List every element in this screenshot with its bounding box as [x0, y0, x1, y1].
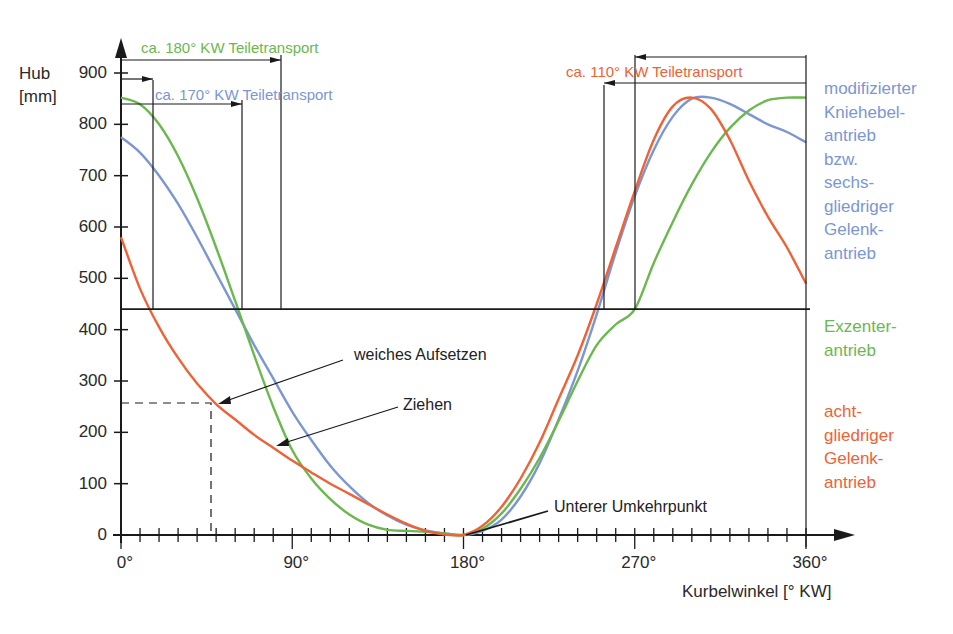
- y-tick-label: 200: [38, 422, 107, 442]
- annotation-ziehen: Ziehen: [403, 397, 452, 413]
- legend-line: antrieb: [824, 242, 917, 266]
- legend-line: antrieb: [824, 339, 897, 363]
- y-axis-label-line2: [mm]: [19, 88, 57, 105]
- y-tick-label: 600: [38, 217, 107, 237]
- series-layer: [121, 97, 806, 536]
- x-tick-label: 180°: [450, 553, 485, 573]
- chart-canvas: [0, 0, 953, 634]
- y-tick-label: 0: [38, 525, 107, 545]
- y-tick-label: 800: [38, 114, 107, 134]
- legend-line: Kniehebel-: [824, 101, 917, 125]
- soft-landing-guide: [121, 403, 211, 535]
- legend-achtgliedrig: acht-gliedrigerGelenk-antrieb: [824, 400, 894, 494]
- legend-line: Gelenk-: [824, 447, 894, 471]
- x-tick-label: 90°: [283, 553, 309, 573]
- annotation-lines: [121, 54, 810, 547]
- legend-exzenter: Exzenter-antrieb: [824, 315, 897, 362]
- x-tick-label: 270°: [621, 553, 656, 573]
- legend-line: sechs-: [824, 171, 917, 195]
- x-tick-label: 360°: [792, 553, 827, 573]
- series-exzenter-line: [121, 97, 806, 535]
- y-axis-arrow-icon: [115, 38, 127, 58]
- x-axis-arrow-icon: [834, 529, 855, 541]
- legend-kniehebel: modifizierterKniehebel-antriebbzw.sechs-…: [824, 77, 917, 265]
- legend-line: bzw.: [824, 148, 917, 172]
- y-tick-label: 900: [38, 63, 107, 83]
- legend-line: Gelenk-: [824, 218, 917, 242]
- y-tick-label: 400: [38, 320, 107, 340]
- legend-line: modifizierter: [824, 77, 917, 101]
- annotation-110-transport: ca. 110° KW Teiletransport: [566, 64, 742, 79]
- arrowhead-icon: [635, 54, 646, 60]
- legend-line: antrieb: [824, 124, 917, 148]
- leader-weiches-aufsetzen: [226, 360, 343, 401]
- arrowhead-icon: [142, 76, 153, 82]
- arrowhead-icon: [218, 396, 231, 404]
- y-tick-label: 100: [38, 474, 107, 494]
- legend-line: gliedriger: [824, 195, 917, 219]
- y-tick-label: 300: [38, 371, 107, 391]
- annotation-weiches-aufsetzen: weiches Aufsetzen: [354, 347, 487, 363]
- y-tick-label: 700: [38, 166, 107, 186]
- legend-line: antrieb: [824, 471, 894, 495]
- x-axis-label: Kurbelwinkel [° KW]: [682, 583, 831, 600]
- x-tick-label: 0°: [117, 553, 133, 573]
- legend-line: acht-: [824, 400, 894, 424]
- arrowhead-icon: [276, 438, 289, 446]
- legend-line: Exzenter-: [824, 315, 897, 339]
- annotation-180-transport: ca. 180° KW Teiletransport: [141, 40, 318, 55]
- legend-line: gliedriger: [824, 424, 894, 448]
- annotation-170-transport: ca. 170° KW Teiletransport: [155, 87, 332, 102]
- annotation-unterer-umkehrpunkt: Unterer Umkehrpunkt: [554, 499, 707, 515]
- arrowhead-icon: [270, 57, 281, 63]
- arrowhead-icon: [604, 80, 615, 86]
- y-tick-label: 500: [38, 268, 107, 288]
